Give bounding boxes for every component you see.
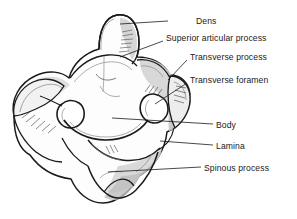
vertebra-body-mass bbox=[13, 15, 191, 203]
label-lamina: Lamina bbox=[216, 141, 245, 151]
transverse-foramen-left bbox=[57, 100, 84, 128]
label-superior-articular-process: Superior articular process bbox=[166, 33, 267, 43]
label-body: Body bbox=[216, 120, 236, 130]
label-transverse-process: Transverse process bbox=[190, 52, 267, 62]
label-dens: Dens bbox=[196, 16, 216, 26]
label-spinous-process: Spinous process bbox=[204, 163, 269, 173]
leader-line-lamina bbox=[160, 141, 213, 145]
label-transverse-foramen: Transverse foramen bbox=[190, 75, 268, 85]
